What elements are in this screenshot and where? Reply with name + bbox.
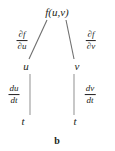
node-variable-t-left: t	[21, 116, 24, 127]
edge-root-to-u	[29, 20, 47, 59]
chain-rule-tree-diagram: f(u,v) u v t t ∂f ∂u ∂f ∂v du dt dv dt b	[0, 0, 115, 151]
figure-caption: b	[54, 135, 60, 146]
edge-label-partial-f-partial-u: ∂f ∂u	[17, 30, 28, 52]
fraction-denominator: dt	[9, 96, 20, 106]
fraction-denominator: ∂u	[17, 42, 28, 52]
fraction-numerator: ∂f	[17, 30, 28, 40]
fraction-denominator: ∂v	[86, 42, 96, 52]
fraction-numerator: dv	[85, 84, 96, 94]
node-variable-t-right: t	[73, 116, 76, 127]
edge-label-dv-dt: dv dt	[85, 84, 96, 106]
fraction-denominator: dt	[85, 96, 96, 106]
fraction-numerator: ∂f	[86, 30, 96, 40]
node-variable-u: u	[23, 61, 29, 72]
fraction-numerator: du	[9, 84, 20, 94]
edge-label-du-dt: du dt	[9, 84, 20, 106]
node-variable-v: v	[75, 61, 80, 72]
node-root-function: f(u,v)	[45, 7, 69, 18]
edge-label-partial-f-partial-v: ∂f ∂v	[86, 30, 96, 52]
tree-edges	[0, 0, 115, 151]
edge-root-to-v	[66, 20, 74, 59]
